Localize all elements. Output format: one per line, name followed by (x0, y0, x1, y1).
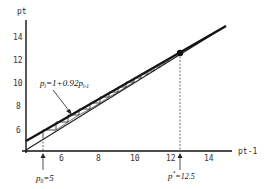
cobweb-diagonals (56, 82, 134, 130)
cobweb-chart: 14 12 10 8 6 6 8 10 12 14 pt pt-1 pt=1+0… (0, 0, 273, 189)
equation-arrowhead-icon (66, 109, 72, 115)
svg-text:10: 10 (13, 79, 23, 88)
svg-text:6: 6 (16, 126, 21, 135)
45-degree-line (26, 26, 226, 150)
p0-label: p0=5 (35, 173, 54, 184)
pstar-arrowhead-icon (178, 153, 183, 158)
equation-arrow (53, 90, 70, 112)
x-tick-labels: 6 8 10 12 14 (59, 154, 214, 163)
pstar-label: p*=12.5 (167, 170, 195, 181)
steady-state-point (177, 50, 183, 56)
svg-text:10: 10 (130, 154, 140, 163)
svg-text:14: 14 (13, 33, 23, 42)
equation-label: pt=1+0.92pt-1 (39, 78, 89, 89)
svg-text:6: 6 (59, 154, 64, 163)
svg-text:12: 12 (166, 154, 176, 163)
svg-text:14: 14 (204, 154, 214, 163)
y-tick-labels: 14 12 10 8 6 (13, 33, 23, 135)
x-axis-label: pt-1 (238, 147, 257, 156)
svg-text:12: 12 (13, 56, 23, 65)
svg-text:8: 8 (16, 102, 21, 111)
y-axis-label: pt (17, 7, 27, 16)
p0-arrowhead-icon (41, 153, 46, 158)
svg-text:8: 8 (96, 154, 101, 163)
